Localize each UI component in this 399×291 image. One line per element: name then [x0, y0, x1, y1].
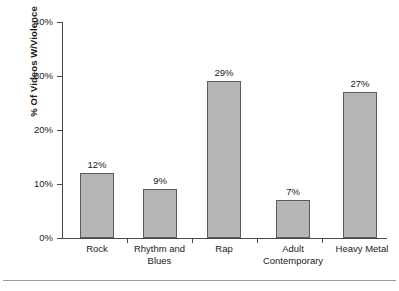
- bar-rap[interactable]: [207, 81, 241, 238]
- y-tick-label-30: 30%: [13, 71, 53, 81]
- bar-value-rap: 29%: [199, 68, 249, 78]
- x-axis-line: [62, 238, 387, 239]
- y-tick-label-0: 0%: [13, 233, 53, 243]
- bar-value-adult-contemporary: 7%: [268, 187, 318, 197]
- x-category-line: Rock: [67, 243, 127, 255]
- y-axis-line: [62, 22, 63, 239]
- y-tick-label-20: 20%: [13, 125, 53, 135]
- bar-value-rhythm-and-blues: 9%: [135, 176, 185, 186]
- bar-chart: % Of Videos W/Violence 40% 30% 20% 10% 0…: [0, 0, 399, 291]
- y-tick-label-40: 40%: [13, 17, 53, 27]
- x-category-label-heavy-metal: Heavy Metal: [327, 243, 397, 255]
- bar-heavy-metal[interactable]: [343, 92, 377, 238]
- x-category-line: Rhythm and: [122, 243, 197, 255]
- x-category-label-rhythm-and-blues: Rhythm and Blues: [122, 243, 197, 267]
- x-category-line: Rap: [194, 243, 254, 255]
- x-category-label-adult-contemporary: Adult Contemporary: [251, 243, 335, 267]
- bar-adult-contemporary[interactable]: [276, 200, 310, 238]
- x-category-line: Blues: [122, 255, 197, 267]
- bar-value-heavy-metal: 27%: [335, 79, 385, 89]
- x-category-line: Adult: [251, 243, 335, 255]
- x-category-label-rock: Rock: [67, 243, 127, 255]
- bar-value-rock: 12%: [72, 160, 122, 170]
- footer-divider: [3, 280, 396, 281]
- bar-rock[interactable]: [80, 173, 114, 238]
- x-category-line: Heavy Metal: [327, 243, 397, 255]
- bar-rhythm-and-blues[interactable]: [143, 189, 177, 238]
- x-category-line: Contemporary: [251, 255, 335, 267]
- x-category-label-rap: Rap: [194, 243, 254, 255]
- y-tick-label-10: 10%: [13, 179, 53, 189]
